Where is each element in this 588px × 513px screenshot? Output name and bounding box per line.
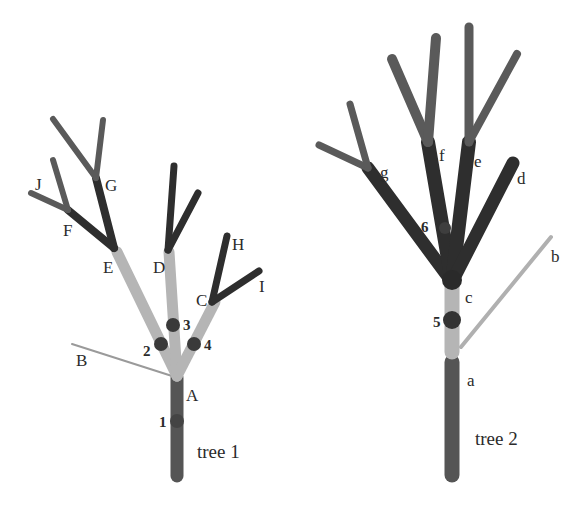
tree1-label-b: B: [76, 351, 87, 370]
tree2-label-g: g: [380, 163, 389, 182]
tree2-caption: tree 2: [475, 428, 518, 449]
tree-1: A B C D E F G H I J 1 2 3 4 tree 1: [31, 119, 265, 476]
tree1-label-h: H: [232, 235, 244, 254]
tree1-label-a: A: [186, 386, 199, 405]
tree1-label-e: E: [103, 258, 113, 277]
tree2-label-c: c: [465, 288, 473, 307]
tree1-label-f: F: [63, 221, 72, 240]
tree1-caption: tree 1: [197, 441, 240, 462]
tree1-twig-g-right: [96, 120, 103, 178]
tree1-marker-2-label: 2: [143, 343, 151, 359]
tree2-label-d: d: [517, 169, 526, 188]
tree1-label-g: G: [105, 176, 117, 195]
tree1-label-j: J: [35, 175, 42, 194]
tree1-marker-2-dot: [154, 337, 168, 351]
tree2-crown-knot: [442, 270, 462, 290]
tree2-marker-6-dot: [439, 222, 451, 234]
tree2-marker-5-dot: [443, 311, 461, 329]
tree2-branch-b: [461, 237, 551, 347]
tree2-marker-6-label: 6: [421, 219, 429, 235]
tree1-marker-3-dot: [166, 318, 180, 332]
tree2-twig-f-left: [392, 59, 428, 142]
tree2-twig-e-right: [469, 54, 517, 142]
tree1-label-d: D: [153, 258, 165, 277]
tree1-label-c: C: [196, 291, 207, 310]
tree2-label-e: e: [474, 152, 482, 171]
tree1-marker-1-label: 1: [159, 414, 167, 430]
tree-2: a b c d e f g 5 6 tree 2: [319, 27, 560, 475]
tree1-marker-4-label: 4: [204, 337, 212, 353]
tree2-label-f: f: [439, 146, 445, 165]
tree2-label-b: b: [551, 247, 560, 266]
tree-diagram: A B C D E F G H I J 1 2 3 4 tree 1: [0, 0, 588, 513]
tree1-marker-3-label: 3: [183, 317, 191, 333]
tree1-label-i: I: [259, 277, 265, 296]
tree2-label-a: a: [467, 371, 475, 390]
tree2-twig-f-up: [428, 38, 436, 142]
tree1-twig-g-left: [53, 119, 96, 178]
tree1-marker-4-dot: [187, 337, 201, 351]
tree2-marker-5-label: 5: [433, 314, 441, 330]
tree1-marker-1-dot: [170, 414, 184, 428]
